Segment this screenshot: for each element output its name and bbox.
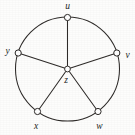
vertex-label-z: z <box>63 75 68 85</box>
vertex-label-v: v <box>125 50 130 60</box>
vertex-label-w: w <box>96 121 103 131</box>
vertex-node-v <box>114 50 120 56</box>
spoke-edges-group <box>18 18 117 112</box>
spoke-edge-z-w <box>68 69 99 112</box>
spoke-edge-z-y <box>18 53 67 69</box>
vertex-node-z <box>65 66 71 72</box>
vertex-label-x: x <box>33 121 39 131</box>
vertex-node-y <box>15 50 21 56</box>
vertex-label-u: u <box>65 1 70 11</box>
vertex-node-w <box>95 108 101 114</box>
vertex-label-y: y <box>4 46 10 56</box>
vertex-node-x <box>34 108 40 114</box>
spoke-edge-z-v <box>68 53 117 69</box>
graph-canvas: uvwxyz <box>0 0 135 135</box>
wheel-graph-figure: uvwxyz <box>0 0 135 135</box>
spoke-edge-z-x <box>38 69 68 112</box>
vertex-node-u <box>64 14 70 20</box>
